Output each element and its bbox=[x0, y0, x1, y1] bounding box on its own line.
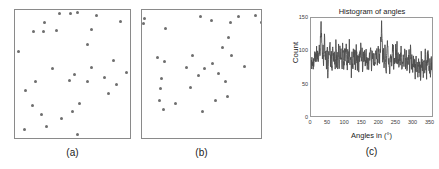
scatter-point bbox=[76, 11, 79, 14]
scatter-point bbox=[156, 56, 159, 59]
scatter-point bbox=[224, 80, 227, 83]
scatter-point bbox=[23, 128, 26, 131]
histogram-plot-area bbox=[310, 17, 433, 117]
histogram-data-line bbox=[311, 21, 432, 81]
scatter-point bbox=[86, 43, 89, 46]
scatter-point bbox=[40, 113, 43, 116]
scatter-plot-area-b bbox=[141, 9, 262, 139]
scatter-point bbox=[199, 15, 202, 18]
scatter-point bbox=[162, 108, 165, 111]
scatter-point bbox=[197, 74, 200, 77]
scatter-point bbox=[115, 83, 118, 86]
scatter-point bbox=[34, 80, 37, 83]
panel-caption-c: (c) bbox=[310, 146, 433, 157]
scatter-point bbox=[32, 30, 35, 33]
scatter-point bbox=[143, 17, 146, 20]
scatter-point bbox=[42, 30, 45, 33]
scatter-point bbox=[43, 21, 46, 24]
scatter-point bbox=[90, 28, 93, 31]
scatter-point bbox=[24, 89, 27, 92]
scatter-point bbox=[214, 99, 217, 102]
scatter-point bbox=[260, 21, 262, 24]
scatter-points-layer-b bbox=[142, 10, 261, 138]
scatter-point bbox=[254, 14, 257, 17]
scatter-panel-a: (a) bbox=[14, 9, 131, 161]
scatter-point bbox=[226, 95, 229, 98]
histogram-x-tick-label: 350 bbox=[420, 119, 439, 125]
scatter-point bbox=[73, 73, 76, 76]
scatter-point bbox=[71, 110, 74, 113]
scatter-point bbox=[119, 20, 122, 23]
histogram-x-ticks: 050100150200250300350 bbox=[310, 119, 433, 128]
histogram-title: Histogram of angles bbox=[311, 7, 433, 16]
scatter-point bbox=[191, 54, 194, 57]
scatter-point bbox=[76, 133, 79, 136]
scatter-point bbox=[210, 19, 213, 22]
histogram-y-ticks: 050100150 bbox=[290, 17, 308, 117]
scatter-point bbox=[189, 86, 192, 89]
scatter-point bbox=[55, 29, 58, 32]
scatter-point bbox=[58, 12, 61, 15]
scatter-point bbox=[60, 117, 63, 120]
histogram-panel-c: Histogram of angles Count 050100150 0501… bbox=[285, 0, 439, 169]
panel-caption-b: (b) bbox=[141, 147, 262, 158]
scatter-point bbox=[201, 110, 204, 113]
scatter-point bbox=[164, 27, 167, 30]
scatter-point bbox=[86, 80, 89, 83]
scatter-point bbox=[125, 71, 128, 74]
histogram-y-tick-label: 100 bbox=[292, 47, 308, 53]
histogram-trace bbox=[311, 18, 432, 116]
scatter-point bbox=[159, 87, 162, 90]
scatter-point bbox=[230, 54, 233, 57]
scatter-point bbox=[31, 104, 34, 107]
scatter-point bbox=[90, 66, 93, 69]
scatter-point bbox=[160, 77, 163, 80]
scatter-point bbox=[69, 12, 72, 15]
scatter-point bbox=[45, 125, 48, 128]
histogram-y-tick-label: 50 bbox=[292, 81, 308, 87]
scatter-point bbox=[229, 21, 232, 24]
scatter-point bbox=[142, 22, 145, 25]
scatter-point bbox=[227, 36, 230, 39]
scatter-point bbox=[174, 102, 177, 105]
scatter-point bbox=[51, 67, 54, 70]
scatter-point bbox=[78, 102, 81, 105]
scatter-point bbox=[107, 92, 110, 95]
scatter-point bbox=[158, 99, 161, 102]
histogram-y-tick-label: 150 bbox=[292, 14, 308, 20]
scatter-point bbox=[211, 62, 214, 65]
scatter-point bbox=[163, 60, 166, 63]
scatter-plot-area-a bbox=[14, 9, 131, 139]
scatter-point bbox=[221, 46, 224, 49]
scatter-panel-b: (b) bbox=[141, 9, 262, 161]
figure-container: (a) (b) Histogram of angles Count 050100… bbox=[0, 0, 439, 169]
scatter-point bbox=[203, 67, 206, 70]
scatter-point bbox=[112, 59, 115, 62]
panel-caption-a: (a) bbox=[14, 147, 131, 158]
scatter-point bbox=[217, 72, 220, 75]
scatter-point bbox=[237, 15, 240, 18]
scatter-point bbox=[243, 65, 246, 68]
histogram-x-axis-label: Angles in (°) bbox=[310, 131, 433, 140]
scatter-point bbox=[17, 50, 20, 53]
scatter-point bbox=[95, 14, 98, 17]
scatter-point bbox=[68, 79, 71, 82]
scatter-point bbox=[185, 66, 188, 69]
scatter-points-layer-a bbox=[15, 10, 130, 138]
scatter-point bbox=[103, 76, 106, 79]
